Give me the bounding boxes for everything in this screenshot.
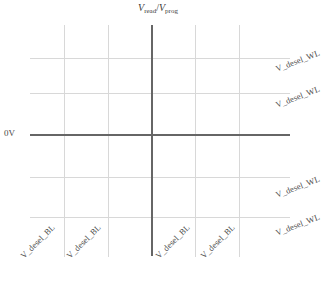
bitline-label-4: V_desel_BL bbox=[198, 222, 236, 260]
gridline-vertical bbox=[239, 25, 240, 257]
title-read-subscript: read bbox=[144, 7, 156, 15]
gridline-horizontal bbox=[30, 58, 290, 59]
horizontal-axis-line bbox=[30, 134, 290, 136]
voltage-bias-chart: Vread/Vprog 0V V_desel_WL V_desel_WL V_d… bbox=[0, 0, 326, 290]
gridline-vertical bbox=[108, 25, 109, 257]
gridline-horizontal bbox=[30, 177, 290, 178]
gridline-horizontal bbox=[30, 93, 290, 94]
vertical-axis-line bbox=[151, 25, 153, 256]
wordline-label-4: V_desel_WL bbox=[274, 212, 321, 238]
gridline-vertical bbox=[64, 25, 65, 257]
bitline-label-2: V_desel_BL bbox=[64, 222, 102, 260]
chart-title: Vread/Vprog bbox=[118, 2, 198, 13]
title-prog-subscript: prog bbox=[165, 7, 178, 15]
gridline-horizontal bbox=[30, 217, 290, 218]
bitline-label-1: V_desel_BL bbox=[18, 222, 56, 260]
wordline-label-1: V_desel_WL bbox=[274, 48, 321, 74]
zero-volt-label: 0V bbox=[4, 128, 15, 138]
gridline-vertical bbox=[195, 25, 196, 257]
wordline-label-2: V_desel_WL bbox=[274, 84, 321, 110]
bitline-label-3: V_desel_BL bbox=[153, 222, 191, 260]
